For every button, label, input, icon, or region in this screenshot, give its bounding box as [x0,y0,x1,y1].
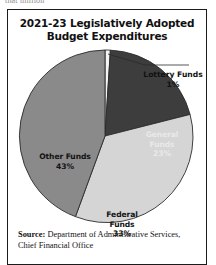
pie-label-other-funds-pct: 43% [32,162,98,172]
chart-title-line-1: 2021-23 Legislatively Adopted [18,17,196,30]
pie-label-lottery-funds: Lottery Funds 1% [142,70,204,89]
chart-title-line-2: Budget Expenditures [18,30,196,43]
pie-label-general-funds-pct: 23% [134,149,190,159]
source-note: Source: Department of Administrative Ser… [18,229,198,251]
pie-label-lottery-funds-name: Lottery Funds [143,70,202,79]
pie-label-lottery-funds-pct: 1% [142,80,204,90]
pie-label-general-funds-line-2: Funds [134,140,190,150]
pie-label-other-funds-line-1: Other Funds [32,152,98,162]
pie-label-general-funds: General Funds 23% [134,130,190,159]
pie-label-other-funds: Other Funds 43% [32,152,98,171]
pie-chart-plot-area: Lottery Funds 1% General Funds 23% Feder… [8,44,206,226]
chart-title: 2021-23 Legislatively Adopted Budget Exp… [18,17,196,43]
pie-label-federal-funds-line-2: Funds [93,220,151,230]
source-note-label: Source: [18,230,45,239]
pie-label-general-funds-line-1: General [134,130,190,140]
figure-container: 2021-23 Legislatively Adopted Budget Exp… [7,9,207,265]
clipped-body-text-above-figure: that million [5,0,125,5]
pie-label-federal-funds-line-1: Federal [93,210,151,220]
